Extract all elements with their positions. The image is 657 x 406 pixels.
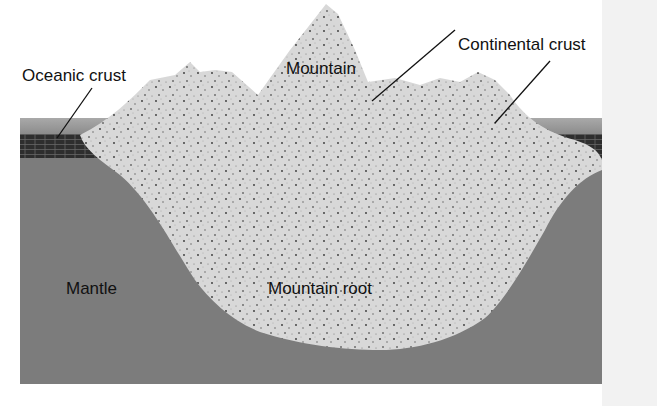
continental-crust-label: Continental crust <box>458 36 586 53</box>
diagram-canvas: Oceanic crust Continental crust Mountain… <box>0 0 657 406</box>
oceanic-crust-label: Oceanic crust <box>22 67 126 84</box>
mantle-label: Mantle <box>66 280 117 297</box>
mountain-root-label: Mountain root <box>268 280 372 297</box>
mountain-label: Mountain <box>286 60 356 77</box>
